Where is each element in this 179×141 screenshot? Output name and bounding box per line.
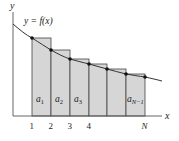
tick-3: 3 bbox=[68, 121, 73, 131]
riemann-sum-diagram: y x y = f(x) 1 2 3 4 N a1 a2 a3 aN−1 bbox=[0, 0, 179, 141]
point-3 bbox=[68, 57, 72, 61]
tick-2: 2 bbox=[49, 121, 54, 131]
tick-4: 4 bbox=[87, 121, 92, 131]
rect-a3 bbox=[70, 59, 89, 116]
y-axis-label: y bbox=[9, 0, 15, 11]
point-N bbox=[143, 75, 147, 79]
rect-a4 bbox=[89, 64, 107, 116]
point-5 bbox=[105, 67, 109, 71]
tick-1: 1 bbox=[30, 121, 35, 131]
point-1 bbox=[30, 36, 34, 40]
rectangles bbox=[32, 38, 145, 116]
rect-a5 bbox=[107, 69, 126, 116]
point-2 bbox=[49, 48, 53, 52]
x-axis-label: x bbox=[164, 110, 170, 121]
rect-a2 bbox=[51, 50, 70, 116]
tick-N: N bbox=[141, 121, 149, 131]
point-6 bbox=[124, 72, 128, 76]
curve-label: y = f(x) bbox=[23, 16, 53, 27]
point-4 bbox=[87, 62, 91, 66]
